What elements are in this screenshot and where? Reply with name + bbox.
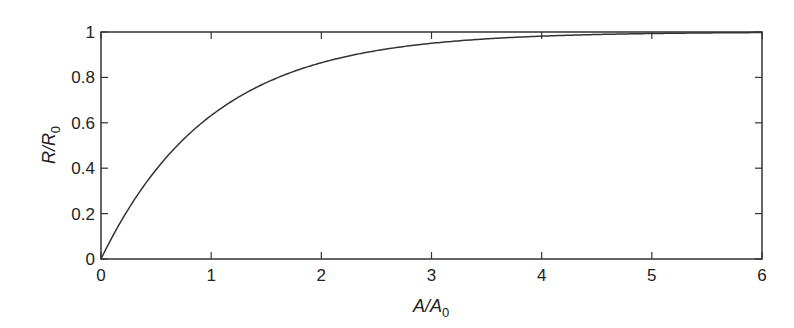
x-tick-label: 6 bbox=[757, 266, 766, 285]
x-tick-label: 1 bbox=[206, 266, 215, 285]
x-tick-label: 4 bbox=[537, 266, 546, 285]
y-tick-label: 0.6 bbox=[71, 114, 95, 133]
x-axis-ticks: 0123456 bbox=[96, 32, 766, 285]
y-tick-label: 1 bbox=[86, 23, 95, 42]
y-tick-label: 0 bbox=[86, 250, 95, 269]
y-axis-label: R/R0 bbox=[39, 126, 63, 164]
x-axis-label: A/A0 bbox=[412, 296, 449, 320]
y-tick-label: 0.4 bbox=[71, 159, 95, 178]
y-axis-ticks: 00.20.40.60.81 bbox=[71, 23, 762, 269]
y-tick-label: 0.8 bbox=[71, 68, 95, 87]
x-tick-label: 2 bbox=[317, 266, 326, 285]
x-tick-label: 3 bbox=[427, 266, 436, 285]
line-chart: 0123456 00.20.40.60.81 A/A0 R/R0 bbox=[0, 0, 794, 328]
plot-area bbox=[101, 32, 762, 259]
series-line bbox=[101, 33, 762, 259]
plot-frame bbox=[101, 32, 762, 259]
x-tick-label: 0 bbox=[96, 266, 105, 285]
y-tick-label: 0.2 bbox=[71, 205, 95, 224]
x-tick-label: 5 bbox=[647, 266, 656, 285]
